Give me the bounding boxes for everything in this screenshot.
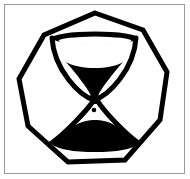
sand-grain-2 [92,108,97,113]
lower-sand [56,120,134,148]
hourglass-artwork [0,0,190,179]
sand-grain-1 [92,96,97,101]
top-rim-inner-opening [59,37,132,45]
image-canvas: Hourglass Black line-art hourglass enclo… [0,0,190,179]
upper-sand [66,62,123,97]
